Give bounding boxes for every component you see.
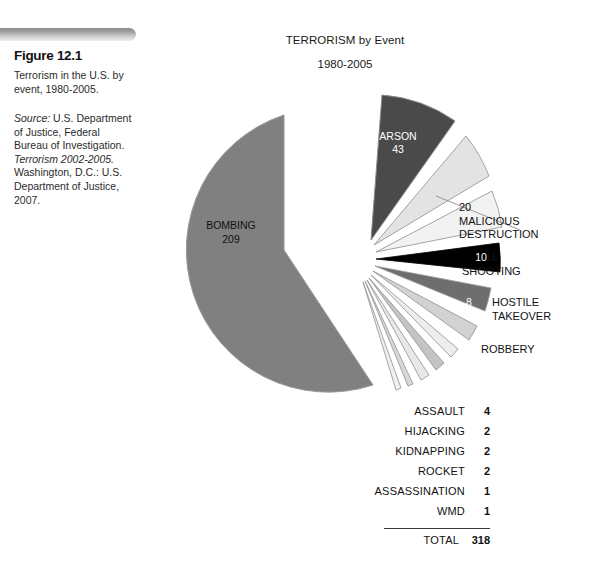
- list-item: HIJACKING 2: [330, 425, 490, 445]
- list-item: KIDNAPPING 2: [330, 445, 490, 465]
- list-item: ASSASSINATION 1: [330, 485, 490, 505]
- pie-slice-rocket[interactable]: [367, 280, 429, 380]
- value-label: KIDNAPPING: [395, 445, 465, 457]
- value-label: ASSASSINATION: [375, 485, 465, 497]
- pie-chart: BOMBING 209 ARSON 43 10 8: [0, 0, 594, 586]
- value-list: ASSAULT 4 HIJACKING 2 KIDNAPPING 2 ROCKE…: [330, 405, 490, 554]
- callout-shooting-value: 16: [462, 251, 521, 265]
- callout-malicious-line1: MALICIOUS: [459, 215, 538, 229]
- pie-slice-bombing[interactable]: [186, 115, 373, 392]
- value-label: WMD: [437, 505, 465, 517]
- total-row: TOTAL 318: [330, 534, 490, 554]
- callout-robbery: ROBBERY: [481, 343, 535, 357]
- callout-malicious-destruction: 20 MALICIOUS DESTRUCTION: [459, 201, 538, 242]
- list-item: WMD 1: [330, 505, 490, 525]
- value-number: 2: [470, 465, 490, 477]
- callout-hostile-line2: TAKEOVER: [492, 310, 551, 324]
- pie-label-arson-value: 43: [392, 143, 404, 155]
- pie-label-bombing-value: 209: [222, 233, 240, 245]
- value-number: 2: [470, 445, 490, 457]
- callout-shooting-line1: SHOOTING: [462, 265, 521, 279]
- callout-shooting: 16 SHOOTING: [462, 251, 521, 278]
- total-value: 318: [470, 534, 490, 546]
- list-item: ROCKET 2: [330, 465, 490, 485]
- value-number: 1: [470, 485, 490, 497]
- value-label: HIJACKING: [405, 425, 465, 437]
- value-number: 2: [470, 425, 490, 437]
- callout-malicious-line2: DESTRUCTION: [459, 228, 538, 242]
- callout-robbery-line1: ROBBERY: [481, 343, 535, 357]
- list-item: ASSAULT 4: [330, 405, 490, 425]
- value-number: 4: [470, 405, 490, 417]
- value-label: ROCKET: [418, 465, 465, 477]
- value-number: 1: [470, 505, 490, 517]
- callout-malicious-value: 20: [459, 201, 538, 215]
- callout-hostile-takeover: HOSTILE TAKEOVER: [492, 296, 551, 323]
- callout-hostile-line1: HOSTILE: [492, 296, 551, 310]
- total-divider-rule: [384, 528, 490, 529]
- pie-label-robbery-value: 8: [466, 296, 472, 308]
- pie-slice-assassination[interactable]: [365, 281, 413, 386]
- pie-label-bombing-name: BOMBING: [206, 219, 256, 231]
- total-label: TOTAL: [424, 534, 459, 546]
- value-label: ASSAULT: [414, 405, 465, 417]
- pie-label-arson-name: ARSON: [379, 130, 416, 142]
